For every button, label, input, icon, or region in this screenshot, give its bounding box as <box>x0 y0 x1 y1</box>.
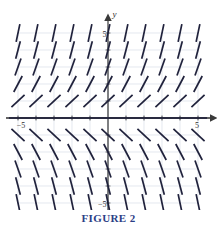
figure-caption: FIGURE 2 <box>0 212 217 224</box>
x-axis-tick-label-negative: −5 <box>17 121 26 130</box>
y-axis-tick-label-negative: −5 <box>98 200 107 209</box>
plot-svg: x y 5 −5 5 −5 <box>0 0 217 210</box>
direction-field-plot: x y 5 −5 5 −5 <box>0 0 217 210</box>
x-axis-tick-label-positive: 5 <box>195 121 199 130</box>
y-axis-label: y <box>112 9 117 19</box>
y-axis-tick-label-positive: 5 <box>103 30 107 39</box>
figure-container: x y 5 −5 5 −5 FIGURE 2 <box>0 0 217 234</box>
